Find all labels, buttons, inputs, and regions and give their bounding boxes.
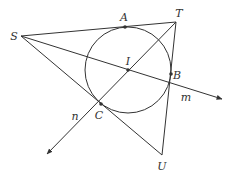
line-n — [47, 22, 176, 154]
geometry-diagram: S T U A B C I m n — [0, 0, 235, 178]
triangle-stu — [21, 22, 176, 155]
label-i: I — [126, 56, 130, 67]
label-s: S — [10, 31, 18, 42]
label-u: U — [157, 161, 166, 172]
line-m — [21, 36, 222, 99]
label-b: B — [173, 70, 181, 81]
point-a — [123, 25, 127, 29]
label-c: C — [95, 110, 103, 121]
label-m: m — [181, 92, 191, 103]
label-n: n — [71, 111, 78, 122]
point-c — [99, 102, 103, 106]
label-t: T — [175, 8, 182, 19]
point-i — [126, 68, 130, 72]
label-a: A — [120, 12, 128, 23]
diagram-svg — [0, 0, 235, 178]
